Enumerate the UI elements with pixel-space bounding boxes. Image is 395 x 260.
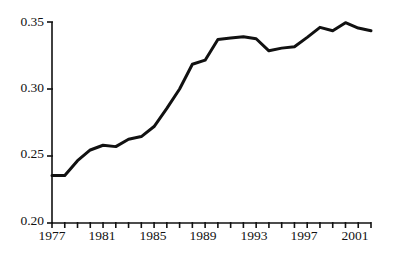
x-tick-label-1977: 1977 (29, 228, 75, 244)
x-tick-label-1997: 1997 (281, 228, 327, 244)
y-tick-label-025: 0.25 (2, 146, 44, 162)
x-tick-label-1989: 1989 (180, 228, 226, 244)
chart-container: 0.35 0.30 0.25 0.20 1977 1981 1985 1989 … (0, 0, 395, 260)
x-tick-label-1985: 1985 (130, 228, 176, 244)
x-tick-label-1981: 1981 (79, 228, 125, 244)
y-tick-label-030: 0.30 (2, 80, 44, 96)
y-tick-label-020: 0.20 (2, 213, 44, 229)
x-tick-label-2001: 2001 (332, 228, 378, 244)
x-tick-label-1993: 1993 (231, 228, 277, 244)
data-series-line (52, 23, 371, 176)
y-tick-label-035: 0.35 (2, 14, 44, 30)
line-chart-plot (0, 0, 395, 260)
